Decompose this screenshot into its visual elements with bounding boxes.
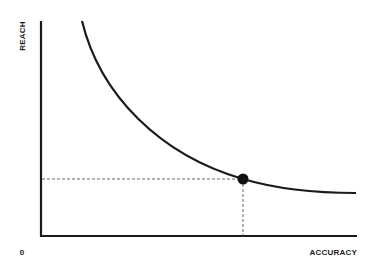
origin-label: 0 xyxy=(20,248,25,257)
y-axis-label: REACH xyxy=(18,21,27,50)
reach-accuracy-diagram: REACH 0 ACCURACY xyxy=(0,0,377,270)
x-axis-label: ACCURACY xyxy=(310,248,358,257)
tradeoff-curve xyxy=(82,21,356,193)
highlight-point xyxy=(238,174,249,185)
